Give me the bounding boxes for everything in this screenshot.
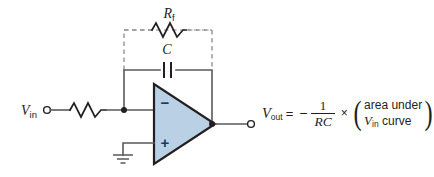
ground-symbol xyxy=(113,155,133,163)
output-equation: Vout = − 1 RC × ( area under Vin curve ) xyxy=(262,98,434,129)
parenthetical-expression: ( area under Vin curve ) xyxy=(352,98,434,129)
capacitor-C-symbol xyxy=(164,62,171,78)
paren-line-2: Vin curve xyxy=(364,113,422,129)
junction-dot-output-node xyxy=(209,121,215,127)
noninverting-input-sign: + xyxy=(161,134,170,151)
paren-close: ) xyxy=(425,101,433,125)
fraction-numerator: 1 xyxy=(317,99,330,113)
equation-lhs-subscript: out xyxy=(271,112,283,122)
equation-lhs: Vout xyxy=(262,106,283,122)
wire-noninverting-to-ground xyxy=(123,143,154,155)
output-terminal-circle[interactable] xyxy=(248,121,255,128)
equals-sign: = xyxy=(286,107,294,120)
paren-content: area under Vin curve xyxy=(363,98,423,129)
inverting-input-sign: − xyxy=(161,94,170,111)
paren-line-2-rest: curve xyxy=(379,114,412,128)
fraction-denominator: RC xyxy=(311,114,334,129)
paren-line-1: area under xyxy=(364,98,422,113)
paren-open: ( xyxy=(353,101,361,125)
label-Rf: Rf xyxy=(162,6,175,23)
label-C: C xyxy=(162,42,172,57)
paren-line-2-subscript: in xyxy=(372,119,379,129)
multiplication-sign: × xyxy=(341,107,348,119)
label-Vin: Vin xyxy=(21,103,37,120)
fraction-one-over-rc: 1 RC xyxy=(311,99,334,129)
resistor-R-symbol xyxy=(70,103,106,117)
junction-dot-inverting-node xyxy=(121,107,127,113)
input-terminal-circle[interactable] xyxy=(44,107,51,114)
negative-sign: − xyxy=(299,106,307,120)
